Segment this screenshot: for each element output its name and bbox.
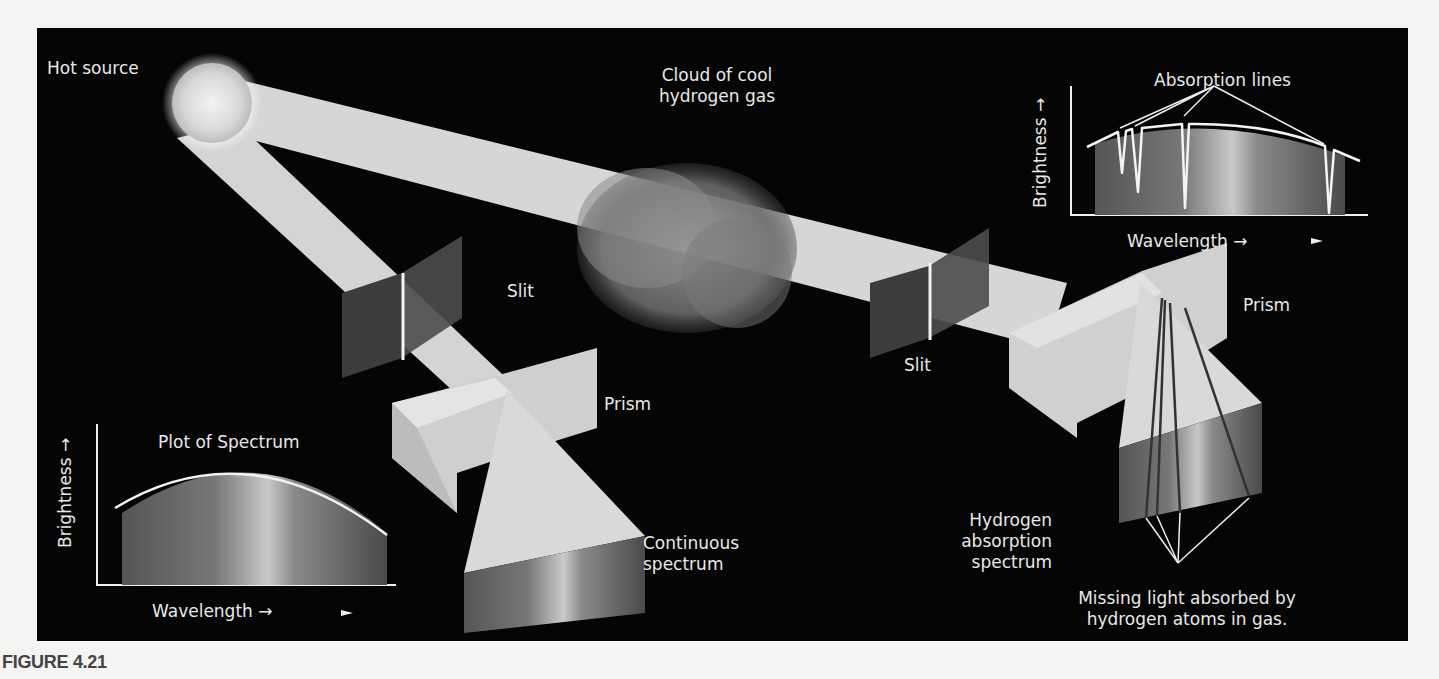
plot-right-ylabel: Brightness → xyxy=(1030,98,1050,208)
label-continuous-spectrum: Continuous spectrum xyxy=(643,533,739,575)
plot-left-title: Plot of Spectrum xyxy=(158,432,300,453)
label-continuous-line1: Continuous xyxy=(643,533,739,554)
plot-right-annotation: Absorption lines xyxy=(1154,70,1291,91)
plot-right-xlabel: Wavelength → xyxy=(1127,231,1248,252)
plot-left-ylabel: Brightness → xyxy=(55,438,75,548)
label-continuous-line2: spectrum xyxy=(643,554,739,575)
label-hydrogen-absorption-spectrum: Hydrogen absorption spectrum xyxy=(917,510,1052,573)
prism-left xyxy=(392,348,645,633)
label-prism-left: Prism xyxy=(604,394,651,415)
figure-caption: FIGURE 4.21 xyxy=(2,652,107,673)
label-slit-left: Slit xyxy=(507,281,534,302)
plot-left-xlabel: Wavelength → xyxy=(152,601,273,622)
label-hydrogen-line2: absorption xyxy=(917,531,1052,552)
label-slit-right: Slit xyxy=(904,355,931,376)
label-hydrogen-line3: spectrum xyxy=(917,552,1052,573)
label-missing-light: Missing light absorbed by hydrogen atoms… xyxy=(1067,588,1307,630)
absorption-spectrum-plot xyxy=(1071,86,1368,244)
hydrogen-cloud xyxy=(577,163,797,333)
label-cloud-line1: Cloud of cool xyxy=(637,65,797,86)
hot-source-sphere xyxy=(162,53,262,153)
label-prism-right: Prism xyxy=(1243,295,1290,316)
diagram-panel: Hot source Cloud of cool hydrogen gas Sl… xyxy=(37,28,1408,641)
label-hot-source: Hot source xyxy=(47,58,139,79)
label-cloud-line2: hydrogen gas xyxy=(637,86,797,107)
label-missing-line1: Missing light absorbed by xyxy=(1067,588,1307,609)
label-hydrogen-line1: Hydrogen xyxy=(917,510,1052,531)
label-missing-line2: hydrogen atoms in gas. xyxy=(1067,609,1307,630)
label-hydrogen-cloud: Cloud of cool hydrogen gas xyxy=(637,65,797,107)
